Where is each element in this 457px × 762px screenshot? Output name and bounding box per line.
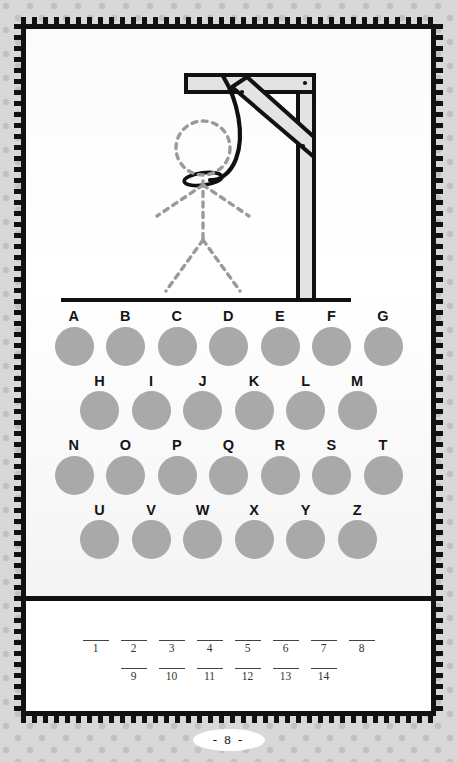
letter-label: F <box>327 309 336 324</box>
letter-option-n[interactable]: N <box>54 438 94 495</box>
answer-blank-line[interactable] <box>311 668 337 669</box>
letter-option-c[interactable]: C <box>157 309 197 366</box>
letter-option-r[interactable]: R <box>260 438 300 495</box>
letter-option-u[interactable]: U <box>80 503 120 560</box>
answer-blank-line[interactable] <box>159 668 185 669</box>
letter-label: D <box>223 309 234 324</box>
letter-option-e[interactable]: E <box>260 309 300 366</box>
answer-blank-number: 13 <box>280 671 292 683</box>
answer-blank[interactable]: 14 <box>308 668 340 683</box>
letter-option-l[interactable]: L <box>286 374 326 431</box>
letter-dot[interactable] <box>158 327 197 366</box>
letter-dot[interactable] <box>338 520 377 559</box>
letter-option-m[interactable]: M <box>337 374 377 431</box>
answer-blank[interactable]: 10 <box>156 668 188 683</box>
letter-option-d[interactable]: D <box>209 309 249 366</box>
letter-dot[interactable] <box>158 456 197 495</box>
answer-blank-number: 1 <box>93 643 99 655</box>
answer-blank-number: 12 <box>242 671 254 683</box>
answer-blank[interactable]: 9 <box>118 668 150 683</box>
answer-blank[interactable]: 5 <box>232 640 264 655</box>
letter-dot[interactable] <box>55 327 94 366</box>
letter-option-h[interactable]: H <box>80 374 120 431</box>
answer-blank[interactable]: 7 <box>308 640 340 655</box>
answer-blank-number: 14 <box>318 671 330 683</box>
letter-dot[interactable] <box>364 327 403 366</box>
letter-dot[interactable] <box>55 456 94 495</box>
answer-blank-line[interactable] <box>83 640 109 641</box>
figure-right-leg-icon <box>203 240 240 291</box>
letter-dot[interactable] <box>235 520 274 559</box>
letter-dot[interactable] <box>286 391 325 430</box>
letter-label: A <box>69 309 80 324</box>
answer-blank-line[interactable] <box>197 640 223 641</box>
letter-dot[interactable] <box>312 327 351 366</box>
letter-dot[interactable] <box>106 456 145 495</box>
answer-blank-line[interactable] <box>273 640 299 641</box>
letter-label: U <box>94 503 105 518</box>
frame-teeth-bottom <box>21 715 436 723</box>
answer-blank-line[interactable] <box>159 640 185 641</box>
answer-blank-line[interactable] <box>121 640 147 641</box>
letter-option-f[interactable]: F <box>312 309 352 366</box>
letter-option-z[interactable]: Z <box>337 503 377 560</box>
answer-blank[interactable]: 2 <box>118 640 150 655</box>
letter-dot[interactable] <box>183 520 222 559</box>
letter-dot[interactable] <box>183 391 222 430</box>
letter-dot[interactable] <box>209 456 248 495</box>
answer-blank-line[interactable] <box>235 640 261 641</box>
answer-blank-number: 7 <box>321 643 327 655</box>
letter-dot[interactable] <box>261 327 300 366</box>
answer-blank-number: 6 <box>283 643 289 655</box>
alphabet-row-1: A B C D E <box>26 309 431 366</box>
letter-option-j[interactable]: J <box>183 374 223 431</box>
answer-blank-line[interactable] <box>311 640 337 641</box>
answer-blank[interactable]: 11 <box>194 668 226 683</box>
answer-blank[interactable]: 13 <box>270 668 302 683</box>
letter-option-b[interactable]: B <box>106 309 146 366</box>
answer-blank-line[interactable] <box>121 668 147 669</box>
letter-option-t[interactable]: T <box>363 438 403 495</box>
letter-label: V <box>146 503 156 518</box>
answer-blank-line[interactable] <box>235 668 261 669</box>
decorative-frame: A B C D E <box>21 24 436 716</box>
answer-blank-line[interactable] <box>273 668 299 669</box>
answer-blank-line[interactable] <box>197 668 223 669</box>
letter-option-o[interactable]: O <box>106 438 146 495</box>
letter-dot[interactable] <box>132 391 171 430</box>
letter-option-x[interactable]: X <box>234 503 274 560</box>
letter-dot[interactable] <box>132 520 171 559</box>
letter-option-k[interactable]: K <box>234 374 274 431</box>
letter-option-s[interactable]: S <box>312 438 352 495</box>
letter-option-p[interactable]: P <box>157 438 197 495</box>
letter-dot[interactable] <box>312 456 351 495</box>
letter-dot[interactable] <box>235 391 274 430</box>
letter-dot[interactable] <box>80 391 119 430</box>
answer-blank[interactable]: 3 <box>156 640 188 655</box>
letter-dot[interactable] <box>80 520 119 559</box>
answer-blank[interactable]: 12 <box>232 668 264 683</box>
letter-option-w[interactable]: W <box>183 503 223 560</box>
letter-option-g[interactable]: G <box>363 309 403 366</box>
letter-option-q[interactable]: Q <box>209 438 249 495</box>
puzzle-card: A B C D E <box>21 24 436 716</box>
figure-head-icon <box>176 121 230 175</box>
letter-option-i[interactable]: I <box>131 374 171 431</box>
answer-blank[interactable]: 1 <box>80 640 112 655</box>
letter-dot[interactable] <box>364 456 403 495</box>
letter-dot[interactable] <box>209 327 248 366</box>
letter-option-v[interactable]: V <box>131 503 171 560</box>
hangman-gallows <box>26 29 431 319</box>
letter-dot[interactable] <box>286 520 325 559</box>
letter-option-a[interactable]: A <box>54 309 94 366</box>
letter-dot[interactable] <box>338 391 377 430</box>
answer-blank[interactable]: 4 <box>194 640 226 655</box>
letter-option-y[interactable]: Y <box>286 503 326 560</box>
letter-label: M <box>351 374 363 389</box>
letter-dot[interactable] <box>261 456 300 495</box>
answer-blank[interactable]: 8 <box>346 640 378 655</box>
answer-blank-line[interactable] <box>349 640 375 641</box>
answer-blank[interactable]: 6 <box>270 640 302 655</box>
answer-blank-number: 8 <box>359 643 365 655</box>
letter-dot[interactable] <box>106 327 145 366</box>
